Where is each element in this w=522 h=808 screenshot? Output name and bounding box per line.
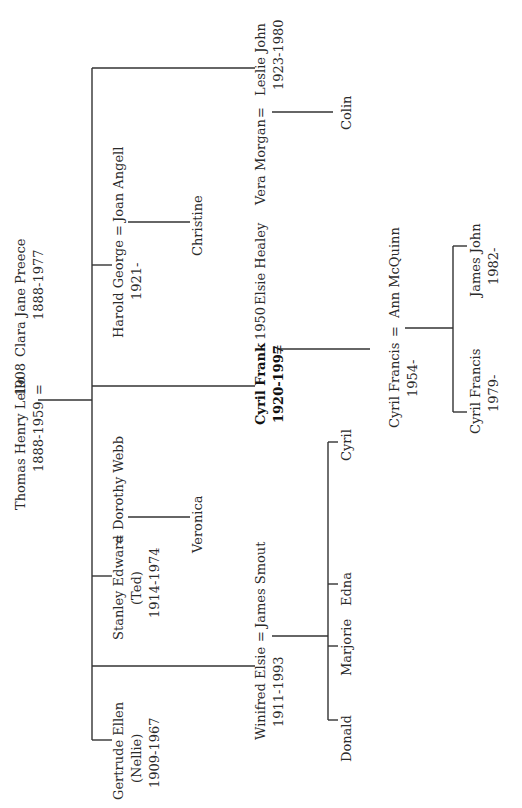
cyril-francis-jr-dates: 1979- (486, 375, 501, 412)
gen1-couple: Thomas Henry Lello 1888-1959 1908 = Clar… (13, 238, 46, 510)
cyril-frank-marriage-year: 1950 (253, 307, 268, 340)
harold-spouse: Joan Angell (111, 147, 126, 224)
winifred-name: Winifred Elsie (253, 647, 268, 740)
leslie-symbol: = (253, 107, 268, 118)
james-john-dates: 1982- (486, 248, 501, 285)
stanley-spouse: Dorothy Webb (111, 436, 126, 530)
winifred-spouse: James Smout (253, 541, 268, 630)
cyril-francis-name: Cyril Francis (387, 343, 402, 428)
gen1-marriage-year: 1908 (13, 363, 28, 396)
cyril-francis-dates: 1954- (405, 360, 420, 397)
donald-name: Donald (339, 715, 354, 762)
james-john-name: James John (468, 223, 483, 299)
stanley-symbol: = (111, 534, 126, 545)
cyril-smout-name: Cyril (339, 429, 354, 461)
winifred-dates: 1911-1993 (271, 656, 286, 727)
colin-name: Colin (339, 95, 354, 130)
gertrude-nickname: (Nellie) (129, 734, 144, 783)
stanley-name: Stanley Edward (111, 535, 126, 640)
veronica-name: Veronica (190, 495, 205, 554)
harold-dates: 1921- (129, 263, 144, 300)
family-tree-diagram: Thomas Henry Lello 1888-1959 1908 = Clar… (0, 0, 522, 808)
vera-morgan-name: Vera Morgan (253, 119, 268, 206)
cyril-francis-symbol: = (387, 326, 402, 337)
gen1-husband-dates: 1888-1959 (31, 401, 46, 472)
gen1-wife-dates: 1888-1977 (31, 249, 46, 320)
edna-name: Edna (339, 572, 354, 606)
cyril-frank-dates: 1920-1997 (271, 345, 286, 423)
gertrude-name: Gertrude Ellen (111, 701, 126, 800)
christine-name: Christine (190, 195, 205, 256)
leslie-dates: 1923-1980 (271, 19, 286, 90)
cyril-frank-spouse: Elsie Healey (253, 222, 268, 305)
harold-symbol: = (111, 225, 126, 236)
stanley-nickname: (Ted) (129, 571, 144, 605)
gertrude-dates: 1909-1967 (147, 717, 162, 788)
gen1-wife-name: Clara Jane Preece (13, 238, 28, 357)
cyril-frank-symbol: = (271, 344, 286, 355)
cyril-francis-jr-name: Cyril Francis (468, 349, 483, 434)
gen1-marriage-symbol: = (31, 384, 46, 395)
winifred-symbol: = (253, 631, 268, 642)
harold-name: Harold George (111, 240, 126, 338)
cyril-frank-name: Cyril Frank (253, 342, 268, 425)
leslie-name: Leslie John (253, 22, 268, 96)
cyril-francis-spouse: Ann McQuinn (387, 227, 402, 319)
marjorie-name: Marjorie (339, 618, 354, 676)
stanley-dates: 1914-1974 (147, 547, 162, 618)
